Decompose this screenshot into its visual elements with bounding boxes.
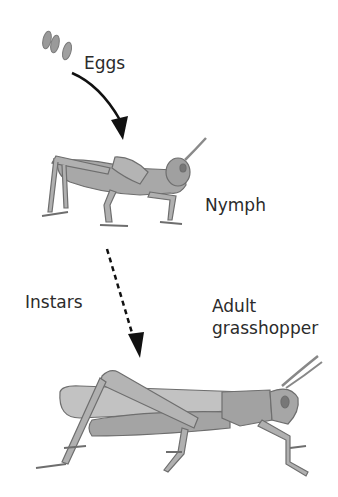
arrowhead-icon [111, 116, 128, 140]
instars-label: Instars [25, 292, 83, 312]
eggs-illustration [41, 30, 73, 60]
adult-label-line2: grasshopper [212, 318, 318, 338]
nymph-label: Nymph [205, 195, 266, 215]
nymph-illustration [42, 138, 206, 226]
life-cycle-diagram [0, 0, 338, 497]
nymph-to-adult-arrow [107, 249, 135, 343]
adult-grasshopper-illustration [36, 356, 322, 476]
eggs-label: Eggs [84, 53, 125, 73]
eggs-to-nymph-arrow [72, 73, 120, 120]
arrowhead-icon [128, 332, 144, 358]
adult-label-line1: Adult [212, 296, 256, 316]
